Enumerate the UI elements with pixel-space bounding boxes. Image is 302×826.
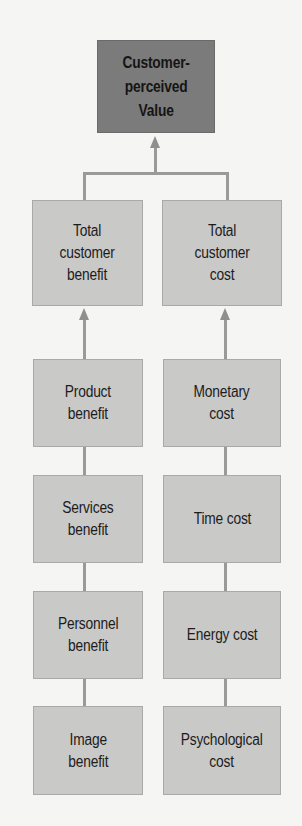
top-arrow-line [154, 146, 157, 173]
product-benefit-box: Product benefit [33, 359, 143, 447]
product-benefit-label: Product benefit [65, 381, 111, 425]
customer-value-diagram: Customer- perceived Value Total customer… [0, 0, 302, 826]
right-connector-2-3 [224, 447, 227, 475]
monetary-cost-label: Monetary cost [194, 381, 250, 425]
right-arrowhead-icon [220, 308, 230, 320]
left-arrow-line [83, 318, 86, 359]
customer-perceived-value-box: Customer- perceived Value [97, 40, 215, 133]
bracket-left-vertical [83, 172, 86, 200]
services-benefit-box: Services benefit [33, 475, 143, 563]
left-connector-3-4 [83, 563, 86, 591]
right-arrow-line [224, 318, 227, 359]
time-cost-box: Time cost [163, 475, 281, 563]
energy-cost-label: Energy cost [187, 624, 258, 646]
left-connector-2-3 [83, 447, 86, 475]
left-arrowhead-icon [79, 308, 89, 320]
customer-perceived-value-label: Customer- perceived Value [122, 51, 189, 123]
psychological-cost-box: Psychological cost [163, 706, 281, 795]
left-connector-4-5 [83, 679, 86, 706]
monetary-cost-box: Monetary cost [163, 359, 281, 447]
bracket-horizontal [83, 172, 229, 175]
total-customer-benefit-label: Total customer benefit [60, 220, 115, 286]
image-benefit-box: Image benefit [33, 706, 143, 795]
right-connector-3-4 [224, 563, 227, 591]
services-benefit-label: Services benefit [62, 497, 113, 541]
personnel-benefit-box: Personnel benefit [33, 591, 143, 679]
psychological-cost-label: Psychological cost [181, 729, 263, 773]
right-connector-4-5 [224, 679, 227, 706]
top-arrowhead-icon [150, 136, 160, 148]
time-cost-label: Time cost [193, 508, 251, 530]
image-benefit-label: Image benefit [68, 729, 108, 773]
personnel-benefit-label: Personnel benefit [58, 613, 118, 657]
energy-cost-box: Energy cost [163, 591, 281, 679]
total-customer-cost-label: Total customer cost [194, 220, 249, 286]
total-customer-cost-box: Total customer cost [162, 200, 282, 306]
total-customer-benefit-box: Total customer benefit [32, 200, 143, 306]
bracket-right-vertical [226, 172, 229, 200]
